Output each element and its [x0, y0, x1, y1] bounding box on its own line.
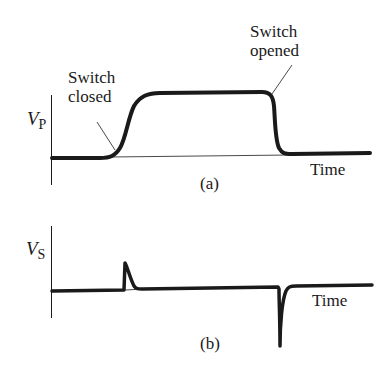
panel-b-y-axis-label: VS [26, 238, 45, 263]
y-label-subscript: S [38, 247, 46, 262]
y-label-subscript: P [39, 117, 47, 132]
panel-b-x-axis-label: Time [312, 291, 347, 310]
panel-a-y-axis-label: VP [27, 108, 46, 133]
switch-opened-leader-line [272, 65, 292, 94]
panel-b-caption: (b) [200, 334, 220, 353]
panel-a-x-axis-label: Time [310, 160, 345, 179]
switch-closed-leader-line [97, 122, 115, 150]
panel-a-reference-line [110, 155, 290, 157]
y-label-text: V [27, 108, 39, 129]
switch-closed-line1: Switch [68, 68, 115, 87]
switch-opened-line1: Switch [250, 22, 299, 41]
y-label-text: V [26, 238, 38, 259]
switch-opened-label: Switchopened [250, 22, 299, 60]
switch-opened-line2: opened [250, 41, 299, 60]
panel-a-caption: (a) [200, 174, 219, 193]
switch-closed-line2: closed [68, 87, 115, 106]
switch-closed-label: Switchclosed [68, 68, 115, 106]
diagram-canvas [0, 0, 386, 374]
